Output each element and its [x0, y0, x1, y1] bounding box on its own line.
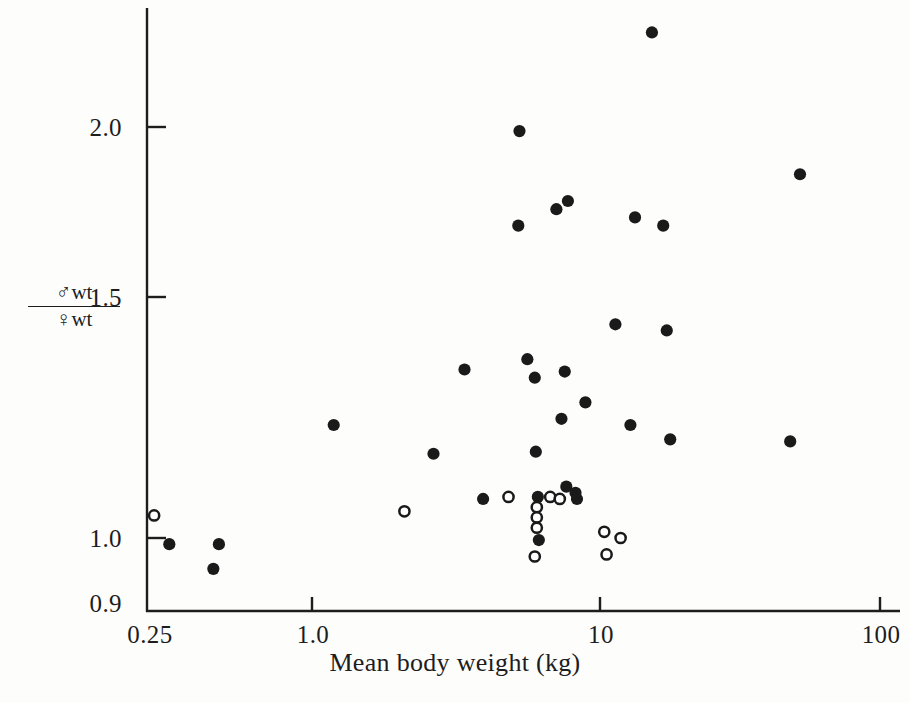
data-point-open — [601, 549, 611, 559]
data-point-filled — [550, 203, 562, 215]
data-point-filled — [533, 534, 545, 546]
data-point-filled — [207, 563, 219, 575]
data-point-filled — [657, 220, 669, 232]
data-point-filled — [513, 125, 525, 137]
data-point-filled — [530, 446, 542, 458]
plot-canvas — [0, 0, 910, 703]
x-axis-ticks — [312, 597, 880, 611]
data-point-filled — [163, 538, 175, 550]
data-point-open — [532, 502, 542, 512]
data-point-filled — [559, 365, 571, 377]
data-point-filled — [624, 419, 636, 431]
data-point-filled — [521, 353, 533, 365]
data-point-filled — [213, 538, 225, 550]
data-point-filled — [555, 413, 567, 425]
data-point-open — [503, 492, 513, 502]
y-axis-title-numerator: ♂wt — [28, 281, 120, 307]
y-tick-label: 2.0 — [60, 115, 122, 140]
x-tick-label: 10 — [588, 622, 614, 647]
data-point-filled — [609, 318, 621, 330]
y-axis-ticks — [147, 127, 166, 538]
x-tick-label: 100 — [862, 622, 901, 647]
data-point-open — [616, 533, 626, 543]
data-point-open — [532, 523, 542, 533]
data-point-filled — [458, 363, 470, 375]
data-point-filled — [784, 435, 796, 447]
axis-lines — [146, 8, 900, 612]
data-point-open — [530, 551, 540, 561]
scatter-plot-figure: 2.0 1.5 1.0 0.9 0.25 1.0 10 100 ♂wt ♀wt … — [0, 0, 910, 703]
data-markers — [149, 26, 806, 575]
data-point-filled — [661, 324, 673, 336]
data-point-filled — [562, 195, 574, 207]
data-point-open — [532, 512, 542, 522]
y-axis-title-denominator: ♀wt — [28, 307, 120, 332]
data-point-filled — [794, 168, 806, 180]
data-point-filled — [529, 372, 541, 384]
data-point-filled — [569, 487, 581, 499]
x-tick-label: 0.25 — [127, 622, 172, 647]
data-point-filled — [328, 419, 340, 431]
data-point-filled — [629, 211, 641, 223]
data-point-open — [599, 527, 609, 537]
data-point-filled — [512, 220, 524, 232]
data-point-filled — [664, 433, 676, 445]
data-point-filled — [427, 448, 439, 460]
data-point-filled — [646, 26, 658, 38]
x-tick-label: 1.0 — [297, 622, 329, 647]
data-point-filled — [477, 493, 489, 505]
data-point-open — [399, 506, 409, 516]
y-tick-label: 0.9 — [60, 591, 122, 616]
x-axis-title: Mean body weight (kg) — [0, 648, 910, 678]
y-axis-title: ♂wt ♀wt — [28, 281, 120, 331]
data-point-filled — [579, 396, 591, 408]
y-tick-label: 1.0 — [60, 526, 122, 551]
data-point-open — [149, 510, 159, 520]
data-point-open — [555, 494, 565, 504]
